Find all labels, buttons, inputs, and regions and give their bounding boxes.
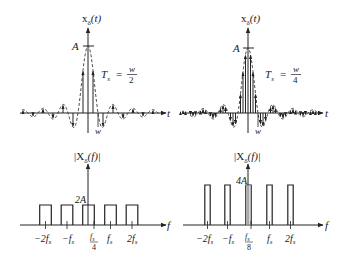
tick-label-fs-over-8-num: fs	[245, 232, 250, 242]
spectrum-pulses	[40, 205, 138, 225]
tick-label-neg-fs: −fs	[222, 233, 235, 246]
spectrum-pulse	[267, 185, 272, 225]
tick-label-2fs: 2fs	[127, 233, 138, 246]
amplitude-label: 2A	[75, 194, 87, 205]
title: |Xδ(f)|	[74, 150, 101, 165]
center-pulse-fill	[246, 185, 251, 225]
ts-denominator: 4	[293, 75, 298, 85]
f-axis-label: f	[325, 219, 330, 231]
ts-equals: =	[116, 68, 122, 80]
tick-label-neg-fs: −fs	[62, 233, 75, 246]
panel-spectrum-ts-w2: |Xδ(f)| 2A f −2fs −fs fs 4 fs 2fs	[20, 150, 172, 252]
spectrum-pulse	[225, 185, 230, 225]
tick-label-neg-2fs: −2fs	[34, 233, 52, 246]
t-axis-label: t	[167, 107, 171, 119]
ts-equals: =	[280, 68, 286, 80]
w-label: w	[95, 126, 101, 136]
title: xδ(t)	[82, 12, 102, 27]
spectrum-pulse	[288, 185, 293, 225]
tick-label-fs-over-4-num: fs	[90, 232, 95, 242]
amplitude-label: A	[232, 42, 240, 54]
sinc-envelope	[190, 48, 318, 127]
tick-label-fs-over-8-den: 8	[247, 243, 251, 252]
spectrum-pulse	[205, 185, 210, 225]
tick-label-2fs: 2fs	[285, 233, 296, 246]
spectrum-pulses	[205, 185, 293, 225]
sinc-envelope	[22, 46, 160, 128]
tick-labels: −2fs −fs fs 4 fs 2fs	[34, 232, 138, 252]
tick-label-neg-2fs: −2fs	[196, 233, 214, 246]
ts-denominator: 2	[129, 75, 134, 85]
f-axis-label: f	[167, 219, 172, 231]
t-axis-label: t	[325, 107, 329, 119]
ts-numerator: w	[293, 64, 299, 74]
amplitude-label: 4A	[236, 175, 248, 186]
tick-labels: −2fs −fs fs 8 fs 2fs	[196, 232, 296, 252]
title: xδ(t)	[241, 12, 261, 27]
tick-label-fs: fs	[107, 233, 113, 246]
tick-label-fs: fs	[267, 233, 273, 246]
ts-label: Ts	[101, 68, 110, 83]
ts-label: Ts	[265, 68, 274, 83]
panel-time-ts-w2: xδ(t) A Ts = w 2 t w	[20, 12, 171, 136]
title: |Xδ(f)|	[234, 150, 261, 165]
diagram-canvas: xδ(t) A Ts = w 2 t w xδ(t) A Ts = w 4 t …	[0, 0, 351, 266]
ts-numerator: w	[129, 64, 135, 74]
panel-time-ts-w4: xδ(t) A Ts = w 4 t w	[181, 12, 330, 136]
panel-spectrum-ts-w4: |Xδ(f)| 4A f −2fs −fs fs 8 fs 2fs	[183, 150, 330, 252]
w-label: w	[255, 126, 261, 136]
amplitude-label: A	[71, 40, 79, 52]
tick-label-fs-over-4-den: 4	[92, 243, 96, 252]
